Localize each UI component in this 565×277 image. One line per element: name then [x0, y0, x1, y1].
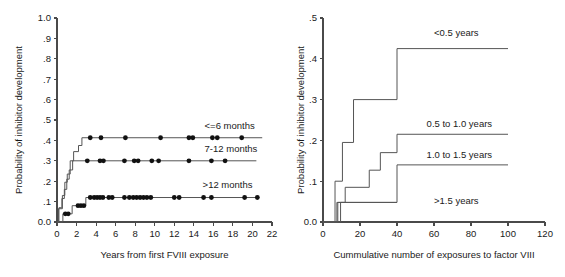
y-tick-label: 0.0 — [304, 216, 317, 227]
y-tick-label: .9 — [43, 33, 51, 44]
series-label: <=6 months — [205, 120, 255, 131]
censor-marker — [215, 135, 220, 140]
y-tick-label: .3 — [43, 155, 51, 166]
x-tick-label: 18 — [228, 228, 239, 239]
censor-marker — [255, 195, 260, 200]
x-tick-label: 4 — [93, 228, 98, 239]
chart-svg-right: 0.0.1.2.3.4.5020406080100120Probability … — [283, 0, 565, 277]
x-axis-title: Cummulative number of exposures to facto… — [333, 249, 534, 260]
censor-marker — [99, 135, 104, 140]
x-tick-label: 16 — [208, 228, 219, 239]
censor-marker — [242, 195, 247, 200]
y-tick-label: .1 — [309, 176, 317, 187]
censor-marker — [81, 203, 86, 208]
series-curve — [57, 161, 256, 222]
series-curve — [323, 165, 508, 222]
censor-marker — [209, 158, 214, 163]
x-tick-label: 60 — [429, 228, 440, 239]
y-tick-label: .8 — [43, 53, 51, 64]
censor-marker — [148, 195, 153, 200]
censor-marker — [172, 195, 177, 200]
x-axis-title: Years from first FVIII exposure — [101, 249, 229, 260]
censor-marker — [123, 135, 128, 140]
censor-marker — [201, 195, 206, 200]
censor-marker — [122, 158, 127, 163]
x-tick-label: 8 — [133, 228, 138, 239]
series-curve — [57, 198, 259, 222]
y-tick-label: .4 — [309, 53, 317, 64]
series-label: 7-12 months — [205, 143, 258, 154]
y-tick-label: 1.0 — [38, 12, 51, 23]
x-tick-label: 120 — [537, 228, 553, 239]
censor-marker — [110, 195, 115, 200]
censor-marker — [85, 158, 90, 163]
x-tick-label: 40 — [392, 228, 403, 239]
censor-marker — [156, 158, 161, 163]
censor-marker — [66, 211, 71, 216]
censor-marker — [88, 135, 93, 140]
x-tick-label: 0 — [54, 228, 59, 239]
y-tick-label: 0.0 — [38, 216, 51, 227]
series-curve — [323, 202, 397, 222]
censor-marker — [101, 195, 106, 200]
x-tick-label: 80 — [466, 228, 477, 239]
y-tick-label: .1 — [43, 196, 51, 207]
series-label: >12 months — [203, 179, 253, 190]
x-tick-label: 14 — [189, 228, 200, 239]
y-tick-label: .5 — [309, 12, 317, 23]
figure-container: 0.0.1.2.3.4.5.6.7.8.91.00246810121416182… — [0, 0, 565, 277]
x-tick-label: 22 — [267, 228, 278, 239]
y-tick-label: .2 — [43, 176, 51, 187]
censor-marker — [210, 135, 215, 140]
censor-marker — [239, 135, 244, 140]
censor-marker — [101, 158, 106, 163]
x-tick-label: 100 — [500, 228, 516, 239]
series-label: 1.0 to 1.5 years — [427, 149, 493, 160]
series-label: <0.5 years — [434, 27, 479, 38]
y-tick-label: .5 — [43, 114, 51, 125]
censor-marker — [177, 195, 182, 200]
y-tick-label: .7 — [43, 74, 51, 85]
y-tick-label: .4 — [43, 135, 51, 146]
censor-marker — [190, 135, 195, 140]
censor-marker — [158, 135, 163, 140]
series-label: 0.5 to 1.0 years — [427, 118, 493, 129]
x-tick-label: 0 — [320, 228, 325, 239]
y-tick-label: .3 — [309, 94, 317, 105]
censor-marker — [149, 158, 154, 163]
x-tick-label: 20 — [355, 228, 366, 239]
censor-marker — [122, 195, 127, 200]
y-tick-label: .6 — [43, 94, 51, 105]
censor-marker — [136, 158, 141, 163]
y-axis-title: Probability of inhibitor development — [295, 46, 306, 194]
x-tick-label: 2 — [74, 228, 79, 239]
series-curve — [323, 49, 508, 222]
series-label: >1.5 years — [434, 195, 479, 206]
x-tick-label: 10 — [149, 228, 160, 239]
y-axis-title: Probability of inhibitor development — [13, 46, 24, 194]
censor-marker — [223, 158, 228, 163]
series-curve — [323, 134, 508, 222]
chart-panel-left: 0.0.1.2.3.4.5.6.7.8.91.00246810121416182… — [0, 0, 283, 277]
x-tick-label: 20 — [247, 228, 258, 239]
chart-svg-left: 0.0.1.2.3.4.5.6.7.8.91.00246810121416182… — [0, 0, 283, 277]
censor-marker — [209, 195, 214, 200]
y-tick-label: .2 — [309, 135, 317, 146]
x-tick-label: 12 — [169, 228, 180, 239]
x-tick-label: 6 — [113, 228, 118, 239]
censor-marker — [187, 158, 192, 163]
chart-panel-right: 0.0.1.2.3.4.5020406080100120Probability … — [283, 0, 565, 277]
